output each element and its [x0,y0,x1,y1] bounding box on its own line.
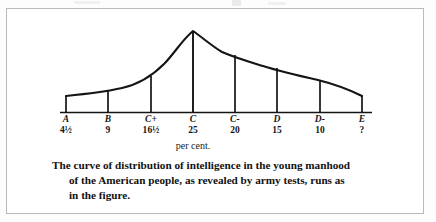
tick-value-label: 16½ [128,126,174,136]
tick-grade-label: D [254,115,300,125]
tick-C-minus: C- 20 [212,115,258,136]
x-axis-title: per cent. [123,140,263,151]
figure-page: A 4½ B 9 C+ 16½ C 25 C- 20 D 15 D- 10 E … [0,0,436,222]
tick-value-label: 20 [212,126,258,136]
tick-D: D 15 [254,115,300,136]
tick-grade-label: C- [212,115,258,125]
tick-C: C 25 [170,115,216,136]
tick-A: A 4½ [43,115,89,136]
caption-line-3: in the figure. [52,188,388,203]
tick-value-label: ? [339,126,385,136]
caption-line-2: of the American people, as revealed by a… [52,173,388,188]
tick-grade-label: E [339,115,385,125]
caption-line-1: The curve of distribution of intelligenc… [52,158,388,173]
tick-grade-label: B [85,115,131,125]
tick-value-label: 4½ [43,126,89,136]
distribution-curve [66,31,362,96]
tick-value-label: 9 [85,126,131,136]
tick-D-minus: D- 10 [297,115,343,136]
tick-grade-label: C [170,115,216,125]
tick-C-plus: C+ 16½ [128,115,174,136]
tick-value-label: 25 [170,126,216,136]
tick-grade-label: A [43,115,89,125]
tick-value-label: 15 [254,126,300,136]
figure-caption: The curve of distribution of intelligenc… [52,158,388,202]
tick-E: E ? [339,115,385,136]
tick-B: B 9 [85,115,131,136]
tick-grade-label: D- [297,115,343,125]
tick-value-label: 10 [297,126,343,136]
tick-grade-label: C+ [128,115,174,125]
